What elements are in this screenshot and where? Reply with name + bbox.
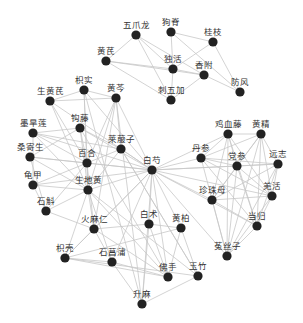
edge-zhiqiao-foshou [65, 258, 168, 277]
node-huomaren: 火麻仁 [81, 214, 108, 234]
node-dot [111, 93, 120, 102]
node-label: 香附 [195, 60, 213, 70]
node-shenghuangqi: 生黄芪 [37, 86, 64, 106]
node-label: 鸡血藤 [215, 119, 242, 129]
node-label: 防风 [231, 77, 249, 87]
node-dot [176, 223, 185, 232]
node-dot [101, 56, 110, 65]
node-dot [83, 185, 92, 194]
node-label: 桂枝 [204, 27, 222, 37]
node-dot [166, 27, 175, 36]
edge-huangqin-shenghuangqi [50, 98, 116, 101]
node-yuanzhi: 远志 [269, 149, 287, 169]
node-dot [193, 271, 202, 280]
edge-baizhu-huangbai [149, 224, 181, 228]
node-huangqin: 黄芩 [107, 83, 125, 103]
node-dot [41, 206, 50, 215]
node-dot [256, 129, 265, 138]
node-qianghuo: 羌活 [263, 181, 281, 201]
node-ciwujia: 刺五加 [158, 85, 185, 105]
node-danggui: 当归 [248, 211, 266, 231]
node-guijia: 龟甲 [24, 170, 42, 190]
node-dot [196, 153, 205, 162]
node-label: 升麻 [133, 289, 151, 299]
node-dot [28, 128, 37, 137]
node-yuzhu: 玉竹 [189, 261, 207, 281]
node-label: 当归 [248, 211, 266, 221]
node-dot [207, 195, 216, 204]
node-sangjisheng: 桑寄生 [17, 142, 44, 162]
node-dot [25, 152, 34, 161]
node-dot [252, 221, 261, 230]
node-laifuzi: 莱菔子 [108, 134, 135, 154]
node-label: 佛手 [159, 262, 177, 272]
node-label: 墨旱莲 [20, 118, 47, 128]
node-label: 白芍 [143, 155, 161, 165]
node-label: 五爪龙 [123, 20, 150, 30]
node-dangshen: 党参 [228, 151, 246, 171]
node-label: 党参 [228, 151, 246, 161]
node-dot [267, 191, 276, 200]
node-shihu: 石斛 [37, 196, 55, 216]
node-huangjing: 黄精 [252, 119, 270, 139]
node-dot [60, 253, 69, 262]
node-label: 百合 [78, 148, 96, 158]
node-label: 钩藤 [71, 113, 89, 123]
node-dot [79, 85, 88, 94]
node-label: 石斛 [37, 196, 55, 206]
node-shengdihuang: 生地黄 [75, 175, 102, 195]
node-zhiqiao: 枳壳 [56, 243, 74, 263]
node-foshou: 佛手 [159, 262, 177, 282]
node-dot [82, 158, 91, 167]
node-dot [144, 219, 153, 228]
node-shengma: 升麻 [133, 289, 151, 309]
node-baihe: 百合 [78, 148, 96, 168]
node-dot [168, 64, 177, 73]
node-label: 羌活 [263, 181, 281, 191]
node-dot [166, 95, 175, 104]
edge-zhenzhumu-qianghuo [212, 196, 272, 200]
herb-network-diagram: 五爪龙狗脊桂枝黄芪独活香附防风刺五加枳实黄芩生黄芪钩藤墨旱莲莱菔子桑寄生百合白芍… [0, 0, 303, 323]
node-dot [107, 257, 116, 266]
node-label: 丹参 [192, 143, 210, 153]
node-zhenzhumu: 珍珠母 [199, 185, 226, 205]
node-dot [116, 144, 125, 153]
node-label: 珍珠母 [199, 185, 226, 195]
node-baizhu: 白术 [140, 209, 158, 229]
node-label: 枳实 [75, 75, 93, 85]
node-jixueteng: 鸡血藤 [215, 119, 242, 139]
node-label: 火麻仁 [81, 214, 108, 224]
node-dot [223, 129, 232, 138]
node-label: 桑寄生 [17, 142, 44, 152]
node-label: 黄精 [252, 119, 270, 129]
node-label: 生地黄 [75, 175, 102, 185]
node-dot [131, 30, 140, 39]
node-label: 龟甲 [24, 170, 42, 180]
node-dot [273, 159, 282, 168]
node-label: 独活 [164, 54, 182, 64]
node-label: 黄芩 [107, 83, 125, 93]
node-label: 白术 [140, 209, 158, 219]
node-label: 远志 [269, 149, 287, 159]
node-dot [28, 180, 37, 189]
node-label: 黄芪 [97, 46, 115, 56]
node-dot [222, 251, 231, 260]
node-fangfeng: 防风 [231, 77, 249, 97]
node-dot [232, 161, 241, 170]
node-dot [89, 224, 98, 233]
edge-huangqi-xiangfu [106, 61, 204, 75]
node-dot [45, 96, 54, 105]
node-label: 莱菔子 [108, 134, 135, 144]
node-label: 玉竹 [189, 261, 207, 271]
node-dot [208, 37, 217, 46]
node-shichangpu: 石菖蒲 [99, 247, 126, 267]
node-label: 石菖蒲 [99, 247, 126, 257]
node-dot [75, 123, 84, 132]
node-label: 刺五加 [158, 85, 185, 95]
node-gouteng: 钩藤 [71, 113, 89, 133]
node-label: 菟丝子 [214, 241, 241, 251]
edge-shengdihuang-foshou [88, 190, 168, 277]
node-label: 狗脊 [162, 17, 180, 27]
node-tusizi: 菟丝子 [214, 241, 241, 261]
node-duhuo: 独活 [164, 54, 182, 74]
